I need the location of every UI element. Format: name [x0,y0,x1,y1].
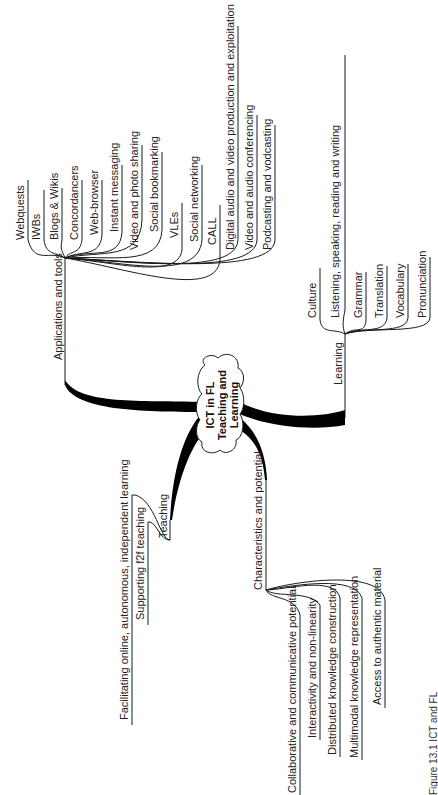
central-topic-line1: ICT in FL [204,381,216,428]
central-topic-line3: Learning [228,382,240,428]
characteristics-branch[interactable]: Characteristics and potential Collaborat… [252,451,385,795]
app-item-instant-messaging: Instant messaging [108,143,120,232]
app-item-social-networking: Social networking [188,156,200,242]
app-item-video-audio-conferencing: Video and audio conferencing [243,105,255,250]
app-item-vles: VLEs [168,211,180,238]
char-item-multimodal: Multimodal knowledge representation [348,576,360,758]
mind-map: ICT in FL Teaching and Learning Applicat… [0,0,438,795]
app-item-blogs-wikis: Blogs & Wikis [48,172,60,240]
app-item-web-browser: Web-browser [88,169,100,235]
learning-item-vocabulary: Vocabulary [394,263,406,318]
applications-branch[interactable]: Applications and tools Webquests IWBs Bl… [14,4,275,385]
char-item-interactivity: Interactivity and non-linearity [306,597,318,738]
app-item-social-bookmarking: Social bookmarking [148,136,160,232]
central-topic-cloud[interactable]: ICT in FL Teaching and Learning [196,354,243,452]
teaching-branch[interactable]: Teaching Facilitating online, autonomous… [118,459,170,725]
teaching-item-supporting-f2f: Supporting f2f teaching [134,507,146,620]
figure-caption: Figure 13.1 ICT and FL [428,691,438,795]
learning-item-four-skills: Listening, speaking, reading and writing [329,125,341,318]
app-item-iwbs: IWBs [30,213,42,240]
characteristics-label: Characteristics and potential [252,451,264,590]
app-item-call: CALL [206,217,218,245]
central-topic-line2: Teaching and [216,370,228,440]
learning-item-culture: Culture [306,283,318,318]
learning-branch[interactable]: Learning Culture Listening, speaking, re… [306,55,430,418]
app-item-video-photo-sharing: Video and photo sharing [128,131,140,250]
char-item-authentic-material: Access to authentic material [371,567,383,705]
applications-label: Applications and tools [52,252,64,360]
app-item-podcasting-vodcasting: Podcasting and vodcasting [261,119,273,250]
app-item-digital-audio-video: Digital audio and video production and e… [224,4,236,250]
applications-thick-branch [65,380,203,412]
learning-item-pronunciation: Pronunciation [416,251,428,318]
learning-thick-branch [236,400,345,428]
char-item-distributed: Distributed knowledge construction [326,584,338,755]
learning-label: Learning [332,342,344,385]
app-item-concordancers: Concordancers [68,165,80,240]
learning-item-translation: Translation [373,264,385,318]
teaching-item-facilitating: Facilitating online, autonomous, indepen… [118,459,130,720]
learning-item-grammar: Grammar [352,271,364,318]
char-item-collaborative: Collaborative and communicative potentia… [286,586,298,793]
app-item-webquests: Webquests [14,185,26,240]
